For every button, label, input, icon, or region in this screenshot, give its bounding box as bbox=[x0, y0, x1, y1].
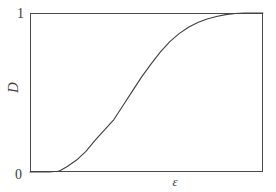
damage-curve-line bbox=[30, 13, 263, 172]
y-axis-title: D bbox=[5, 73, 22, 103]
y-axis-max-tick-label: 1 bbox=[17, 7, 24, 21]
damage-curve-svg bbox=[30, 13, 263, 172]
figure-canvas: 1 0 D ε bbox=[0, 0, 276, 192]
y-axis-min-tick-label: 0 bbox=[15, 168, 22, 182]
x-axis-title: ε bbox=[160, 174, 190, 190]
